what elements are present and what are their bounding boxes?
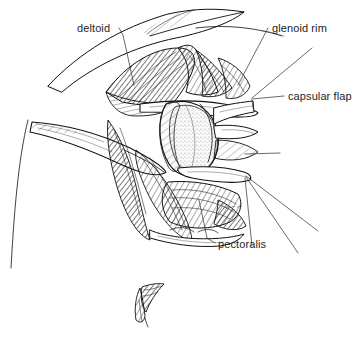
label-pectoralis: pectoralis (218, 238, 266, 250)
capsular-flap-tissue (214, 101, 258, 160)
label-deltoid: deltoid (77, 22, 110, 34)
surgical-illustration-figure: deltoid glenoid rim capsular flap pector… (0, 0, 362, 343)
illustration-canvas: deltoid glenoid rim capsular flap pector… (0, 0, 362, 343)
label-glenoid-rim: glenoid rim (272, 22, 327, 34)
label-capsular-flap: capsular flap (288, 90, 352, 102)
